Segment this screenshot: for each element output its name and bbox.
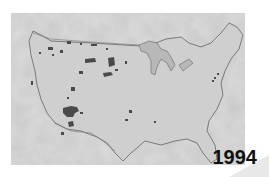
map-frame <box>11 13 245 165</box>
us-map <box>11 13 245 165</box>
year-label: 1994 <box>213 146 258 169</box>
